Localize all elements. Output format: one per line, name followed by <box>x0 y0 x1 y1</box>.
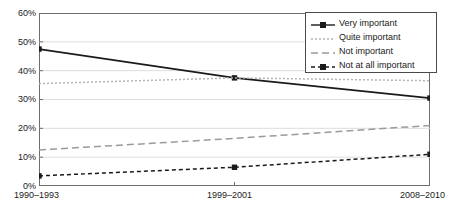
x-axis-tick-label: 1990–1993 <box>14 190 59 200</box>
legend-item-quite-important: Quite important <box>310 30 432 44</box>
legend-swatch-dashed-line-icon <box>310 45 336 57</box>
legend-swatch-solid-square-icon <box>310 17 336 29</box>
legend-item-not-important: Not important <box>310 44 432 58</box>
data-point-marker <box>39 46 42 51</box>
y-axis-tick-label: 30% <box>2 95 36 104</box>
y-axis-tick-marks <box>39 13 43 186</box>
data-point-marker <box>39 173 42 178</box>
x-axis-tick-label: 2008–2010 <box>400 190 445 200</box>
legend-item-label: Not important <box>336 46 393 57</box>
x-axis-tick-label: 1999–2001 <box>207 190 252 200</box>
legend-item-very-important: Very important <box>310 16 432 30</box>
y-axis-tick-label: 20% <box>2 124 36 133</box>
y-axis-tick-label: 60% <box>2 9 36 18</box>
legend-item-not-at-all-important: Not at all important <box>310 58 432 72</box>
x-axis-tick-marks <box>39 182 430 186</box>
data-point-marker <box>427 95 430 100</box>
series-line <box>39 125 430 150</box>
y-axis-tick-label: 50% <box>2 38 36 47</box>
y-axis-tick-label: 10% <box>2 153 36 162</box>
legend-item-label: Not at all important <box>336 60 415 71</box>
line-chart: 60% 50% 40% 30% 20% 10% 0% 1990–1993 199… <box>0 0 456 211</box>
legend-swatch-dashed-square-icon <box>310 59 336 71</box>
data-point-marker <box>232 165 237 170</box>
data-point-marker <box>427 152 430 157</box>
legend-item-label: Quite important <box>336 32 401 43</box>
legend-swatch-dotted-line-icon <box>310 31 336 43</box>
legend-item-label: Very important <box>336 18 397 29</box>
y-axis-tick-label: 40% <box>2 67 36 76</box>
y-axis: 60% 50% 40% 30% 20% 10% 0% <box>0 0 36 211</box>
legend: Very important Quite important Not impor… <box>305 12 437 73</box>
